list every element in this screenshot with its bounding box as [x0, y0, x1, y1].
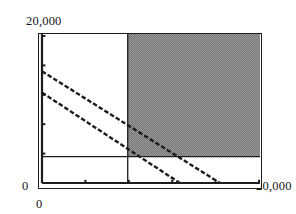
x-axis-zero-label: 0 — [36, 198, 42, 211]
plot-canvas — [39, 34, 260, 187]
chart-figure: 20,000 0 0 20,000 — [0, 0, 296, 214]
y-axis-zero-label: 0 — [22, 180, 28, 193]
y-axis-max-label: 20,000 — [26, 15, 62, 28]
plot-area — [38, 33, 262, 189]
